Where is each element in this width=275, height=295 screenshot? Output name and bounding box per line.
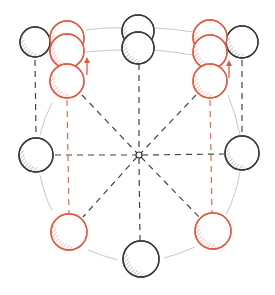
arc-right-upper — [228, 95, 240, 135]
arc-top-right — [155, 28, 193, 32]
spoke-hub-right — [142, 154, 224, 155]
sphere-top-right-gray — [226, 24, 260, 58]
arc-top-right-2 — [155, 50, 193, 55]
arc-left-upper — [40, 103, 52, 135]
drop-red-left — [67, 100, 69, 213]
drop-red-right — [210, 100, 212, 212]
sphere-bottom-center-gray — [123, 239, 162, 277]
spoke-hub-bottom-left — [83, 157, 137, 217]
spoke-hub-bottom — [139, 158, 140, 240]
right-up-arrow — [226, 60, 232, 78]
sphere-left-red-3 — [50, 62, 86, 98]
spoke-hub-top-left — [82, 95, 137, 153]
left-up-arrow — [84, 57, 90, 75]
arc-top-left-2 — [86, 50, 122, 52]
arc-top-left — [86, 28, 122, 30]
sphere-right-red-3 — [193, 62, 229, 98]
arc-bottom-right — [164, 247, 195, 258]
sphere-middle-left-gray — [19, 136, 55, 172]
sphere-bottom-right-red — [195, 211, 234, 249]
spoke-hub-top-right — [141, 95, 196, 153]
arc-bottom-left — [88, 250, 118, 260]
sphere-diagram — [0, 0, 275, 295]
center-hub — [136, 152, 142, 158]
sphere-bottom-left-red — [51, 212, 90, 250]
arc-right-lower — [226, 172, 240, 215]
sphere-middle-right-gray — [225, 134, 261, 170]
sphere-top-left-gray — [20, 26, 52, 58]
drop-top-left — [35, 60, 36, 137]
arc-left-lower — [40, 175, 52, 210]
spoke-hub-bottom-right — [141, 157, 199, 217]
